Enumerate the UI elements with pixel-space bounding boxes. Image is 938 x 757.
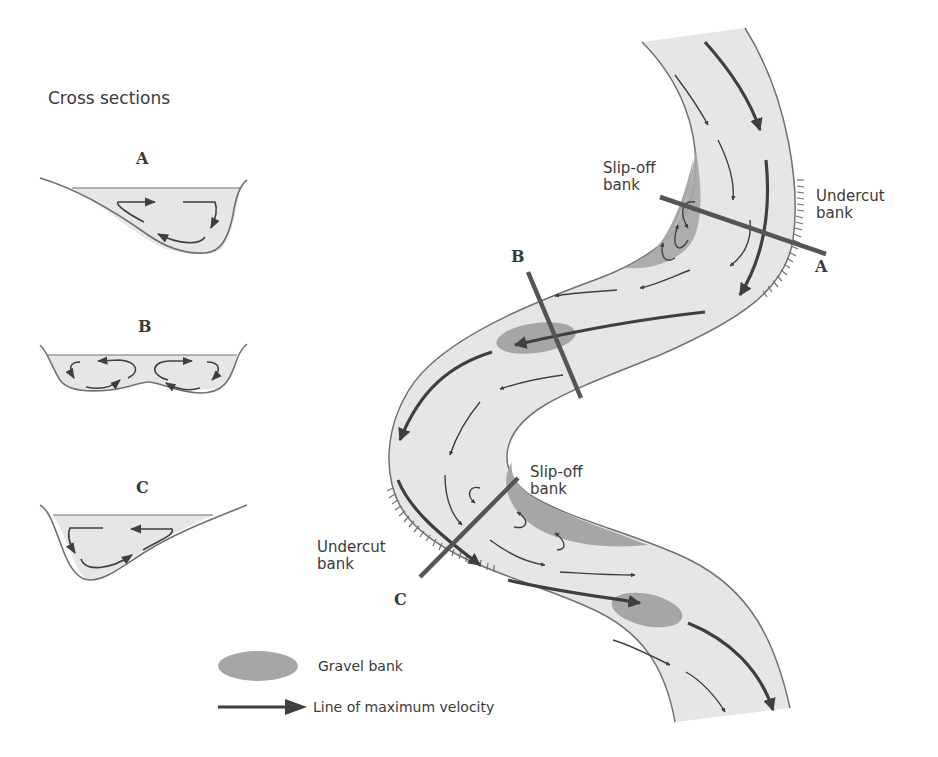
cross-section-c-letter: C <box>136 478 149 497</box>
cross-sections-title: Cross sections <box>48 88 170 108</box>
undercut-label-c-1: Undercut <box>317 538 386 556</box>
undercut-label-a-2: bank <box>816 204 853 222</box>
cross-section-b: B <box>40 317 247 393</box>
section-a-letter: A <box>814 257 828 276</box>
cross-section-c: C <box>40 478 247 580</box>
legend-gravel-label: Gravel bank <box>318 658 404 674</box>
slip-off-label-c-2: bank <box>530 480 567 498</box>
legend: Gravel bank Line of maximum velocity <box>218 651 494 715</box>
cross-section-a-letter: A <box>135 149 149 168</box>
section-b-letter: B <box>511 247 525 266</box>
undercut-label-a-1: Undercut <box>816 187 885 205</box>
slip-off-label-a-1: Slip-off <box>603 159 656 177</box>
legend-velocity-label: Line of maximum velocity <box>313 699 494 715</box>
cross-section-b-letter: B <box>138 317 152 336</box>
undercut-label-c-2: bank <box>317 555 354 573</box>
slip-off-label-a-2: bank <box>603 176 640 194</box>
slip-off-label-c-1: Slip-off <box>530 463 583 481</box>
meander-diagram: Cross sections A B C <box>0 0 938 757</box>
river-channel <box>387 28 804 722</box>
section-c-letter: C <box>394 590 407 609</box>
legend-gravel-icon <box>218 651 298 681</box>
cross-section-a: A <box>40 149 247 254</box>
